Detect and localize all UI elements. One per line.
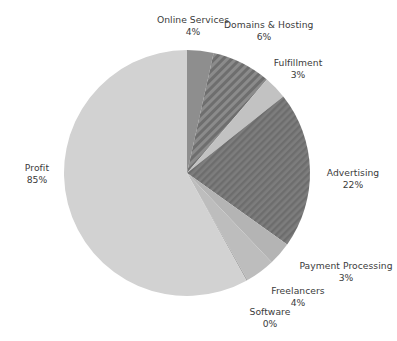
- slice-label-domains-hosting: Domains & Hosting 6%: [224, 19, 304, 42]
- slice-label-percent: 3%: [296, 272, 396, 284]
- slice-label-percent: 85%: [7, 174, 67, 186]
- slice-label-fulfillment: Fulfillment 3%: [258, 57, 338, 80]
- slice-label-percent: 0%: [238, 318, 302, 330]
- slice-label-percent: 3%: [258, 69, 338, 81]
- slice-label-name: Software: [238, 306, 302, 318]
- slice-label-freelancers: Freelancers 4%: [262, 285, 334, 308]
- slice-label-software: Software 0%: [238, 306, 302, 329]
- slice-label-name: Advertising: [316, 167, 390, 179]
- slice-label-percent: 6%: [224, 31, 304, 43]
- slice-label-name: Profit: [7, 162, 67, 174]
- slice-label-name: Freelancers: [262, 285, 334, 297]
- slice-label-name: Payment Processing: [296, 260, 396, 272]
- slice-label-advertising: Advertising 22%: [316, 167, 390, 190]
- slice-label-name: Domains & Hosting: [224, 19, 304, 31]
- pie-chart-page: Online Services 4% Domains & Hosting 6% …: [0, 0, 397, 341]
- slice-label-name: Fulfillment: [258, 57, 338, 69]
- slice-label-percent: 22%: [316, 179, 390, 191]
- slice-label-profit: Profit 85%: [7, 162, 67, 185]
- slice-label-payment-processing: Payment Processing 3%: [296, 260, 396, 283]
- pie-slices-group: [64, 50, 310, 296]
